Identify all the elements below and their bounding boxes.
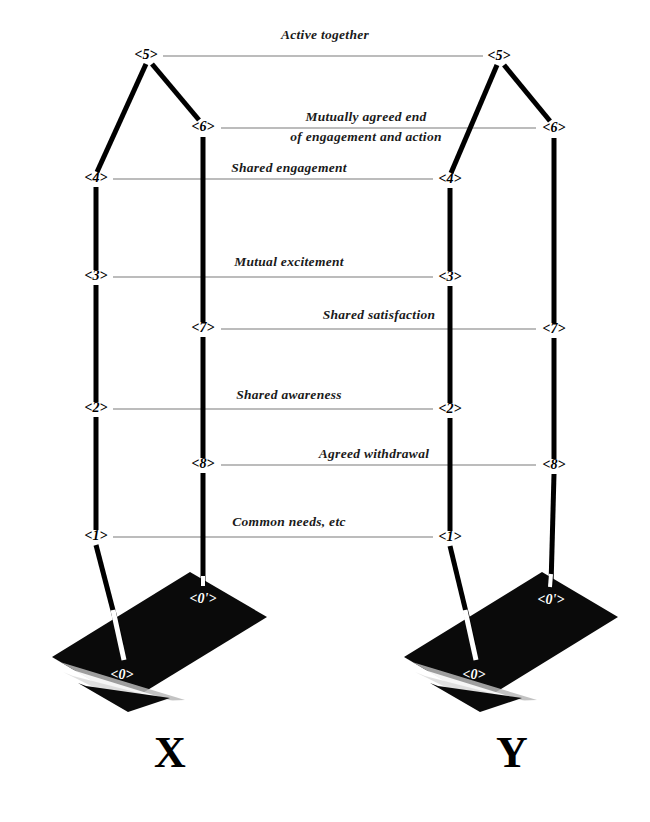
label-active-together: Active together: [280, 27, 370, 42]
node-x-7[interactable]: <7>: [192, 320, 215, 335]
y-edge-5-to-4: [451, 65, 497, 173]
label-mutually-agreed-2: of engagement and action: [290, 129, 442, 144]
node-y-8[interactable]: <8>: [543, 457, 566, 472]
label-shared-satisfaction: Shared satisfaction: [323, 307, 436, 322]
label-mutually-agreed-1: Mutually agreed end: [304, 109, 426, 124]
node-x-1[interactable]: <1>: [85, 528, 108, 543]
node-x-5[interactable]: <5>: [135, 47, 158, 62]
y-ground-plane: [404, 572, 618, 712]
node-y-1[interactable]: <1>: [439, 529, 462, 544]
column-letter-y: Y: [496, 728, 528, 777]
node-y-3[interactable]: <3>: [439, 269, 462, 284]
node-y-4[interactable]: <4>: [439, 171, 462, 186]
y-edge-5-to-6: [504, 65, 550, 121]
node-x-4[interactable]: <4>: [85, 170, 108, 185]
node-y-6[interactable]: <6>: [543, 120, 566, 135]
label-agreed-withdrawal: Agreed withdrawal: [318, 446, 430, 461]
y-plane-polygon: [404, 572, 618, 702]
diagram-canvas: <5> <4> <3> <2> <1> <0> <6> <7> <8> <0'>…: [0, 0, 650, 822]
x-outer-chain: [96, 64, 146, 660]
column-letter-x: X: [154, 728, 186, 777]
x-edge-5-to-6: [152, 64, 199, 120]
node-x-2[interactable]: <2>: [85, 400, 108, 415]
node-x-0[interactable]: <0>: [111, 667, 134, 682]
node-y-2[interactable]: <2>: [439, 401, 462, 416]
engagement-ladder-diagram: <5> <4> <3> <2> <1> <0> <6> <7> <8> <0'>…: [0, 0, 650, 822]
node-x-6[interactable]: <6>: [192, 119, 215, 134]
node-y-7[interactable]: <7>: [543, 321, 566, 336]
node-x-8[interactable]: <8>: [192, 456, 215, 471]
node-y-0[interactable]: <0>: [463, 667, 486, 682]
label-shared-engagement: Shared engagement: [231, 160, 348, 175]
column-letters: X Y: [154, 728, 528, 777]
x-edge-5-to-4: [97, 64, 146, 172]
label-common-needs: Common needs, etc: [232, 514, 345, 529]
node-x-0-prime[interactable]: <0'>: [190, 591, 217, 606]
y-outer-chain: [450, 65, 497, 660]
node-x-3[interactable]: <3>: [85, 268, 108, 283]
y-edge-0prime-onplane: [550, 574, 551, 587]
node-y-0-prime[interactable]: <0'>: [538, 592, 565, 607]
node-y-5[interactable]: <5>: [488, 48, 511, 63]
x-plane-polygon: [52, 572, 267, 702]
y-edge-8-to-0prime: [551, 474, 554, 586]
label-mutual-excitement: Mutual excitement: [233, 254, 345, 269]
label-shared-awareness: Shared awareness: [236, 387, 342, 402]
x-ground-plane: [52, 572, 267, 712]
edge-labels: Active together Mutually agreed end of e…: [231, 27, 442, 529]
